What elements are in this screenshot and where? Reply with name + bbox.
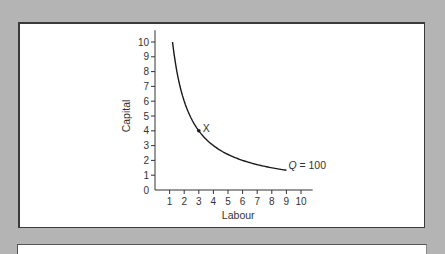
x-axis-ticks: 12345678910	[167, 190, 307, 207]
x-tick-label: 4	[211, 196, 217, 207]
y-axis-ticks: 012345678910	[138, 37, 155, 196]
x-tick-label: 5	[225, 196, 231, 207]
x-tick-label: 6	[240, 196, 246, 207]
y-tick-label: 10	[138, 37, 150, 48]
y-tick-label: 5	[143, 111, 149, 122]
y-tick-label: 7	[143, 81, 149, 92]
y-tick-label: 2	[143, 155, 149, 166]
y-tick-label: 9	[143, 51, 149, 62]
x-tick-label: 8	[269, 196, 275, 207]
y-axis-label: Capital	[120, 100, 132, 133]
y-tick-label: 6	[143, 96, 149, 107]
x-tick-label: 10	[295, 196, 307, 207]
x-tick-label: 1	[167, 196, 173, 207]
y-tick-label: 3	[143, 140, 149, 151]
y-tick-label: 1	[143, 170, 149, 181]
x-tick-label: 2	[181, 196, 187, 207]
y-tick-label: 4	[143, 125, 149, 136]
x-tick-label: 7	[254, 196, 260, 207]
isoquant-curve	[173, 42, 287, 170]
x-axis-label: Labour	[222, 209, 255, 221]
point-x-marker	[197, 129, 201, 133]
y-tick-label: 8	[143, 66, 149, 77]
x-tick-label: 3	[196, 196, 202, 207]
series-label: Q = 100	[288, 159, 326, 171]
point-x-label: X	[203, 122, 210, 134]
x-tick-label: 9	[284, 196, 290, 207]
y-tick-label: 0	[143, 185, 149, 196]
